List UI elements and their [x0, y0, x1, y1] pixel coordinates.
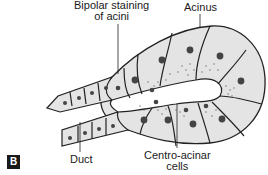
label-acinus: Acinus [184, 2, 217, 13]
leader-lines [0, 0, 268, 175]
label-centro-acinar-cells: Centro-acinar cells [144, 150, 211, 172]
panel-label: B [7, 155, 20, 169]
label-centro-line2: cells [144, 161, 211, 172]
label-duct: Duct [70, 154, 93, 165]
